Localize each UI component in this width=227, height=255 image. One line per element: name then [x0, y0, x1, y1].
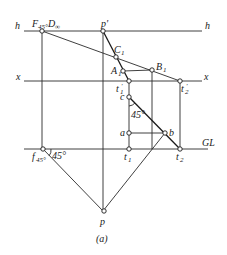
line-b-to-p — [103, 133, 165, 211]
label-t1: t — [124, 151, 127, 162]
label-a: a — [120, 127, 125, 138]
label-b1: B — [156, 61, 162, 72]
point-t1 — [127, 147, 131, 151]
point-b1 — [150, 68, 154, 72]
label-t1-sub: 1 — [128, 156, 132, 164]
point-f45 — [41, 147, 45, 151]
label-d-sub: ∞ — [55, 23, 60, 31]
line-c-to-t2 — [129, 97, 180, 149]
label-angle-c: 45° — [131, 109, 145, 120]
label-h-left: h — [15, 20, 20, 31]
label-c1: C — [114, 44, 121, 55]
angle-arc-c — [129, 103, 135, 106]
point-c1 — [114, 55, 118, 59]
label-x-right: x — [203, 71, 209, 82]
point-c — [127, 95, 131, 99]
label-b: b — [169, 127, 174, 138]
point-a — [127, 131, 131, 135]
point-pprime — [101, 29, 105, 33]
point-b — [163, 131, 167, 135]
label-pprime: p' — [100, 18, 109, 29]
label-h-right: h — [205, 20, 210, 31]
label-t2prime: t — [181, 83, 184, 94]
label-f-sub: 45° — [38, 23, 48, 31]
point-p — [102, 209, 106, 213]
label-c1-sub: 1 — [121, 49, 125, 57]
label-f45-sub: 45° — [36, 156, 46, 164]
label-t2: t — [176, 151, 179, 162]
label-c: c — [120, 91, 125, 102]
label-angle-f: 45° — [52, 150, 66, 161]
label-t2-sub: 2 — [180, 156, 184, 164]
label-t1prime: t — [116, 83, 119, 94]
label-a1: A — [110, 65, 118, 76]
angle-arc-f — [49, 149, 51, 156]
label-a1-sub: 1 — [118, 70, 122, 78]
line-a1-b1 — [123, 70, 152, 71]
point-t1prime — [127, 79, 131, 83]
perspective-construction-diagram: h h x x GL F 45° D ∞ p' C 1 A 1 B 1 t 1 … — [0, 0, 227, 255]
label-x-left: x — [15, 71, 21, 82]
label-p: p — [99, 216, 105, 227]
label-gl: GL — [202, 137, 215, 148]
figure-caption: (a) — [96, 233, 108, 245]
label-b1-sub: 1 — [163, 66, 167, 74]
